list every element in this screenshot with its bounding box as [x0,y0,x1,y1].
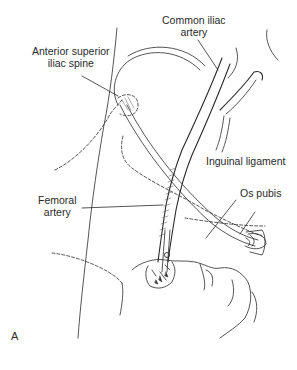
finger-detail-2 [228,280,257,322]
hip-outline-dashed [55,100,122,170]
iliac-crest-outer [128,47,205,66]
hand-left-pinch [146,262,175,288]
label-os-pubis: Os pubis [240,187,281,199]
os-pubis-shape [245,233,266,248]
leader-common-iliac [198,40,218,70]
asis-oval-dashed [118,95,138,116]
iliac-crest [114,53,200,105]
needle-markings [152,265,170,280]
label-inguinal-ligament: Inguinal ligament [206,155,285,167]
internal-iliac-lower [216,116,230,152]
internal-iliac-branch-inner [226,80,256,114]
leader-femoral-artery [82,205,163,208]
panel-letter: A [11,330,18,342]
inguinal-ligament-line-2 [127,105,258,240]
hand-left-wrist [120,283,123,315]
label-anterior-superior-iliac-spine: Anterior superior iliac spine [32,45,110,69]
internal-iliac-branch-outer [220,71,263,110]
thigh-outline-dashed [52,253,122,283]
asis-hatching [122,97,134,110]
leader-asis [82,76,118,96]
aorta-outline [267,30,278,60]
anatomical-illustration: Common iliac artery Anterior superior il… [0,0,297,370]
label-femoral-artery: Femoral artery [38,194,77,218]
pelvic-outline-dashed [122,136,262,236]
artery-top-branch [228,48,238,78]
label-common-iliac-artery: Common iliac artery [162,14,226,38]
finger-detail [200,264,213,290]
body-outline [78,28,117,338]
leader-inguinal-ligament [206,200,236,238]
